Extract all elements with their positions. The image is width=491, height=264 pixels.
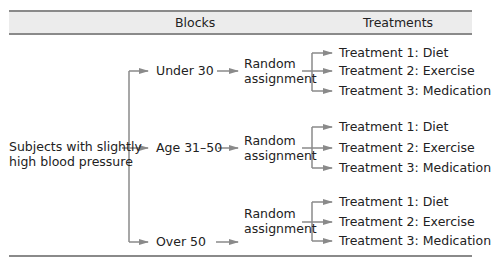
subjects-line1: Subjects with slightly — [9, 139, 142, 154]
random-assignment-3: Random assignment — [244, 206, 317, 236]
bottom-rule — [9, 255, 472, 257]
treatment-item: Treatment 2: Exercise — [339, 214, 475, 229]
block-age-31-50: Age 31–50 — [156, 140, 222, 155]
treatment-item: Treatment 1: Diet — [339, 45, 448, 60]
random-assignment-2: Random assignment — [244, 133, 317, 163]
assignment-line1: Random — [244, 133, 317, 148]
subjects-line2: high blood pressure — [9, 154, 142, 169]
assignment-line1: Random — [244, 206, 317, 221]
random-assignment-1: Random assignment — [244, 56, 317, 86]
assignment-line2: assignment — [244, 71, 317, 86]
block-over-50: Over 50 — [156, 234, 206, 249]
assignment-line2: assignment — [244, 148, 317, 163]
treatment-item: Treatment 3: Medication — [339, 83, 491, 98]
treatment-item: Treatment 1: Diet — [339, 119, 448, 134]
treatment-item: Treatment 3: Medication — [339, 160, 491, 175]
block-under-30: Under 30 — [156, 63, 214, 78]
treatment-item: Treatment 2: Exercise — [339, 63, 475, 78]
assignment-line2: assignment — [244, 221, 317, 236]
treatment-item: Treatment 2: Exercise — [339, 140, 475, 155]
treatment-item: Treatment 3: Medication — [339, 233, 491, 248]
assignment-line1: Random — [244, 56, 317, 71]
treatment-item: Treatment 1: Diet — [339, 194, 448, 209]
subjects-label: Subjects with slightly high blood pressu… — [9, 139, 142, 169]
